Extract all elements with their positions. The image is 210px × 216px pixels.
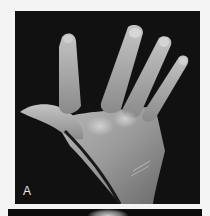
panel-label: A [23, 185, 31, 197]
panel-b-photo-fragment [88, 209, 128, 216]
figure-panel-b [8, 209, 202, 216]
hand-photo [15, 11, 200, 204]
figure-panel-a: A [15, 11, 200, 204]
